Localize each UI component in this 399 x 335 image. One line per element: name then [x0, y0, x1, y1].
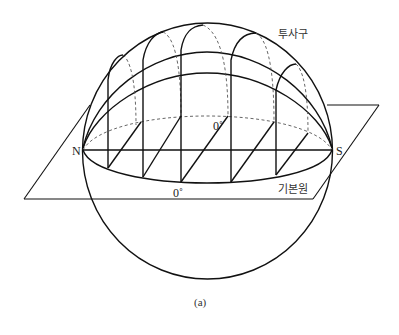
- meridian-arcs: [108, 25, 308, 182]
- lower-small-circle: [83, 73, 332, 148]
- figure-caption: (a): [194, 296, 207, 309]
- south-label: S: [336, 144, 343, 158]
- front-horizon-ellipse: [83, 150, 332, 183]
- projection-sphere-label: 투사구: [278, 28, 308, 41]
- primitive-circle-label: 기본원: [278, 183, 308, 196]
- upper-small-circle: [83, 52, 332, 148]
- zero-degree-back-label: 0˚: [213, 119, 223, 133]
- zero-degree-front-label: 0˚: [173, 186, 183, 200]
- stereographic-projection-diagram: N S 투사구 기본원 0˚ 0˚ (a): [0, 0, 399, 335]
- north-label: N: [72, 144, 81, 158]
- plane-diagonals: [108, 116, 308, 182]
